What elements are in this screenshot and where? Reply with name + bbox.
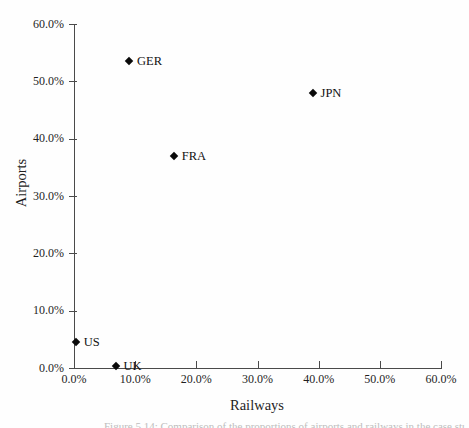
x-tick-mark	[380, 361, 381, 369]
plot-area	[74, 24, 442, 369]
data-point-label: US	[84, 335, 100, 349]
data-point-label: UK	[124, 359, 142, 373]
y-tick-label: 30.0%	[2, 190, 64, 203]
y-tick-mark	[69, 311, 77, 312]
data-point-label: JPN	[321, 86, 342, 100]
data-point-label: FRA	[182, 149, 206, 163]
y-tick-mark	[69, 253, 77, 254]
scatter-chart: 0.0%10.0%20.0%30.0%40.0%50.0%60.0%0.0%10…	[0, 0, 469, 428]
x-tick-label: 40.0%	[297, 373, 341, 386]
x-axis-title: Railways	[207, 397, 307, 414]
y-tick-label: 60.0%	[2, 18, 64, 31]
x-tick-label: 50.0%	[358, 373, 402, 386]
data-point-label: GER	[137, 54, 162, 68]
x-tick-label: 60.0%	[419, 373, 463, 386]
y-tick-mark	[69, 368, 77, 369]
y-tick-mark	[69, 196, 77, 197]
y-tick-mark	[69, 139, 77, 140]
x-tick-label: 30.0%	[236, 373, 280, 386]
y-tick-mark	[69, 24, 77, 25]
y-tick-mark	[69, 81, 77, 82]
y-tick-label: 40.0%	[2, 132, 64, 145]
x-tick-label: 10.0%	[113, 373, 157, 386]
y-tick-label: 10.0%	[2, 304, 64, 317]
x-tick-mark	[319, 361, 320, 369]
y-tick-label: 50.0%	[2, 75, 64, 88]
y-tick-label: 20.0%	[2, 247, 64, 260]
x-tick-mark	[74, 361, 75, 369]
figure-caption-clipped: Figure 5.14: Comparison of the proportio…	[104, 420, 465, 428]
x-tick-mark	[196, 361, 197, 369]
x-tick-mark	[258, 361, 259, 369]
x-tick-label: 0.0%	[52, 373, 96, 386]
x-tick-mark	[441, 361, 442, 369]
x-tick-label: 20.0%	[174, 373, 218, 386]
y-axis-title: Airports	[13, 135, 31, 231]
